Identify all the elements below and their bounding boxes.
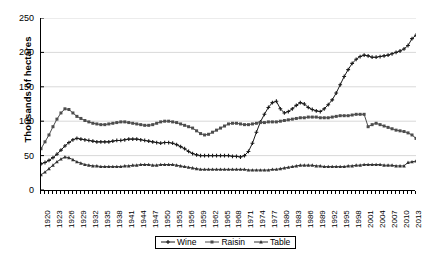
data-point-marker xyxy=(83,119,86,122)
data-point-marker xyxy=(41,162,43,166)
x-tick-mark xyxy=(216,191,217,194)
y-tick-label: 150 xyxy=(8,82,34,92)
x-tick-mark xyxy=(128,191,129,194)
data-point-marker xyxy=(67,108,70,111)
data-point-marker xyxy=(147,139,151,143)
data-point-marker xyxy=(155,122,158,125)
x-tick-mark xyxy=(243,191,244,194)
x-tick-mark xyxy=(379,191,380,194)
x-tick-mark xyxy=(212,191,213,194)
x-tick-label: 1992 xyxy=(330,210,339,228)
x-tick-mark xyxy=(124,191,125,194)
x-tick-label: 1986 xyxy=(306,210,315,228)
x-tick-mark xyxy=(375,191,376,194)
x-tick-label: 1971 xyxy=(246,210,255,228)
x-tick-label: 1923 xyxy=(55,210,64,228)
data-point-marker xyxy=(43,161,47,165)
x-tick-mark xyxy=(136,191,137,194)
data-point-marker xyxy=(267,120,270,123)
x-tick-label: 2010 xyxy=(402,210,411,228)
legend-label: Raisin xyxy=(221,238,245,247)
data-point-marker xyxy=(83,138,87,142)
data-point-marker xyxy=(203,133,206,136)
data-point-marker xyxy=(343,114,346,117)
data-point-marker xyxy=(111,122,114,125)
y-tick-label: 50 xyxy=(8,151,34,161)
x-tick-mark xyxy=(148,191,149,194)
x-tick-mark xyxy=(44,191,45,194)
data-point-marker xyxy=(211,131,214,134)
data-point-marker xyxy=(379,123,382,126)
data-point-marker xyxy=(215,129,218,132)
x-tick-mark xyxy=(275,191,276,194)
x-tick-mark xyxy=(355,191,356,194)
x-tick-mark xyxy=(48,191,49,194)
x-tick-mark xyxy=(391,191,392,194)
data-point-marker xyxy=(366,54,370,58)
data-point-marker xyxy=(243,123,246,126)
data-point-marker xyxy=(87,139,91,143)
data-point-marker xyxy=(159,141,163,145)
x-tick-mark xyxy=(315,191,316,194)
x-tick-label: 1983 xyxy=(294,210,303,228)
data-point-marker xyxy=(103,140,107,144)
series-canvas xyxy=(41,18,416,190)
x-tick-mark xyxy=(415,191,416,194)
x-tick-mark xyxy=(140,191,141,194)
data-point-marker xyxy=(367,125,370,128)
data-point-marker xyxy=(279,120,282,123)
data-point-marker xyxy=(143,139,147,143)
data-point-marker xyxy=(371,123,374,126)
x-tick-label: 2007 xyxy=(390,210,399,228)
data-point-marker xyxy=(51,125,54,128)
x-tick-mark xyxy=(112,191,113,194)
data-point-marker xyxy=(155,141,159,145)
data-point-marker xyxy=(291,118,294,121)
data-point-marker xyxy=(295,117,298,120)
legend-label: Wine xyxy=(177,238,196,247)
x-tick-label: 1956 xyxy=(187,210,196,228)
data-point-marker xyxy=(143,124,146,127)
data-point-marker xyxy=(355,113,358,116)
x-tick-mark xyxy=(367,191,368,194)
x-tick-label: 1998 xyxy=(354,210,363,228)
x-tick-mark xyxy=(76,191,77,194)
x-tick-mark xyxy=(271,191,272,194)
data-point-marker xyxy=(415,137,417,140)
data-point-marker xyxy=(79,137,83,141)
data-point-marker xyxy=(139,138,143,142)
data-point-marker xyxy=(327,116,330,119)
legend-item-table[interactable]: Table xyxy=(254,238,290,247)
data-point-marker xyxy=(103,123,106,126)
x-tick-mark xyxy=(287,191,288,194)
x-tick-mark xyxy=(399,191,400,194)
x-tick-mark xyxy=(239,191,240,194)
legend-item-wine[interactable]: Wine xyxy=(161,238,196,247)
legend-item-raisin[interactable]: Raisin xyxy=(205,238,245,247)
data-point-marker xyxy=(75,115,78,118)
series-table xyxy=(41,155,416,176)
data-point-marker xyxy=(231,154,235,158)
x-tick-label: 1938 xyxy=(115,210,124,228)
legend-marker-table-icon xyxy=(254,238,268,246)
data-point-marker xyxy=(91,122,94,125)
y-tick-label: 200 xyxy=(8,47,34,57)
data-point-marker xyxy=(167,120,170,123)
x-axis-line xyxy=(40,190,415,194)
data-point-marker xyxy=(47,133,50,136)
legend-marker-wine-icon xyxy=(161,238,175,246)
data-point-marker xyxy=(382,54,386,58)
data-point-marker xyxy=(359,113,362,116)
x-tick-label: 1929 xyxy=(79,210,88,228)
x-tick-mark xyxy=(323,191,324,194)
data-point-marker xyxy=(247,123,250,126)
data-point-marker xyxy=(63,107,66,110)
x-tick-label: 1947 xyxy=(151,210,160,228)
data-point-marker xyxy=(175,143,179,147)
chart-legend: WineRaisinTable xyxy=(155,236,296,249)
data-point-marker xyxy=(91,139,95,143)
x-tick-mark xyxy=(104,191,105,194)
x-tick-mark xyxy=(120,191,121,194)
data-point-marker xyxy=(399,129,402,132)
